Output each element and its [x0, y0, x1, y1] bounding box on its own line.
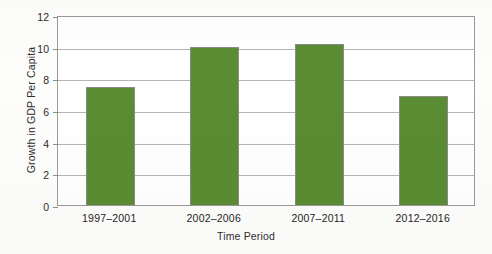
bar	[86, 87, 135, 205]
y-axis-tick-label: 8	[43, 74, 49, 86]
y-axis-tick	[53, 112, 58, 113]
y-axis-tick	[53, 80, 58, 81]
x-axis-tick-label: 2007–2011	[291, 212, 345, 224]
y-axis-tick-label: 12	[37, 11, 49, 23]
bar	[190, 47, 239, 205]
y-axis-tick	[53, 144, 58, 145]
y-axis-tick-label: 2	[43, 169, 49, 181]
y-axis-title: Growth in GDP Per Capita	[25, 15, 37, 205]
y-axis-tick-label: 0	[43, 201, 49, 213]
y-axis-tick	[53, 17, 58, 18]
x-axis-tick-label: 2002–2006	[187, 212, 241, 224]
x-axis-title: Time Period	[0, 230, 492, 242]
gridline	[58, 80, 474, 81]
y-axis-tick-label: 4	[43, 138, 49, 150]
plot-area: 024681012	[57, 16, 475, 206]
x-axis-tick-label: 1997–2001	[82, 212, 136, 224]
y-axis-tick	[53, 49, 58, 50]
gridline	[58, 49, 474, 50]
bar-chart: Growth in GDP Per Capita 024681012 1997–…	[0, 0, 492, 254]
x-axis-tick-label: 2012–2016	[396, 212, 450, 224]
bar	[399, 96, 448, 205]
y-axis-tick	[53, 207, 58, 208]
y-axis-tick-label: 6	[43, 106, 49, 118]
bar	[295, 44, 344, 206]
y-axis-tick-label: 10	[37, 43, 49, 55]
y-axis-tick	[53, 175, 58, 176]
